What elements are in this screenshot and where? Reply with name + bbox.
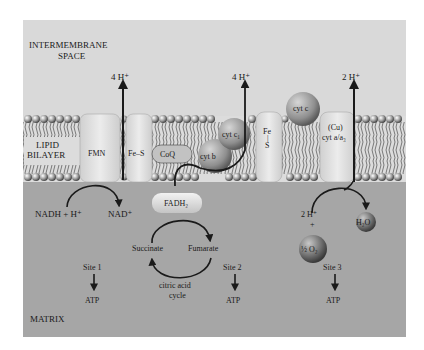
fumarate-label: Fumarate [188, 244, 219, 253]
nadh-label: NADH + H⁺ [35, 209, 82, 219]
fmn-label: FMN [88, 149, 106, 158]
intermembrane-label-2: SPACE [58, 51, 86, 61]
site3-label: Site 3 [323, 263, 341, 272]
coq-label: CoQ [160, 150, 175, 159]
h2-in-label: 2 H⁺ [301, 210, 317, 219]
succinate-label: Succinate [132, 244, 164, 253]
cyt-c-label: cyt c [293, 104, 309, 113]
proton-label-site1: 4 H⁺ [111, 72, 129, 82]
cu-label: (Cu) [328, 123, 343, 132]
half-o2-label: ½ O₂ [301, 245, 318, 254]
proton-label-site2: 4 H⁺ [232, 72, 250, 82]
cyt-c1-label: cyt c₁ [222, 130, 240, 139]
proton-label-site3: 2 H⁺ [342, 72, 360, 82]
site3-atp: ATP [326, 296, 341, 305]
h2o-label: H₂O [356, 218, 371, 227]
site2-atp: ATP [226, 296, 241, 305]
plus-label: + [310, 220, 315, 229]
intermembrane-space-region [23, 20, 406, 116]
site1-label: Site 1 [83, 263, 101, 272]
matrix-label: MATRIX [30, 314, 65, 324]
site1-atp: ATP [85, 296, 100, 305]
fes-complex-1 [126, 114, 152, 182]
cyt-b-label: cyt b [200, 152, 216, 161]
nad-label: NAD⁺ [108, 209, 132, 219]
fes-2-label-3: S [265, 141, 269, 150]
lipid-label-2: BILAYER [27, 150, 65, 160]
electron-transport-chain-diagram: INTERMEMBRANE SPACE 4 H⁺ 4 H⁺ 2 H⁺ LIPID… [0, 0, 424, 350]
cycle-label-2: cycle [169, 291, 186, 300]
cycle-label-1: citric acid [159, 281, 191, 290]
fmn-complex [80, 114, 120, 182]
matrix-region [23, 182, 406, 337]
fadh2-label: FADH₂ [164, 199, 188, 208]
site2-label: Site 2 [223, 263, 241, 272]
lipid-label-1: LIPID [36, 140, 59, 150]
fes-1-label: Fe–S [128, 149, 144, 158]
cyt-aa3-label: cyt a/a₃ [322, 133, 346, 142]
intermembrane-label-1: INTERMEMBRANE [29, 40, 108, 50]
